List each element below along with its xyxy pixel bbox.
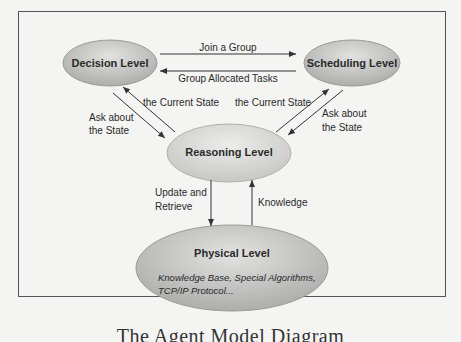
- edge-knowledge: Knowledge: [252, 180, 308, 225]
- node-physical-level: Physical Level Knowledge Base, Special A…: [136, 225, 328, 311]
- node-reasoning-level: Reasoning Level: [167, 124, 291, 182]
- edge-label-update-1: Update and: [155, 187, 207, 198]
- node-reasoning-title: Reasoning Level: [185, 146, 272, 158]
- diagram-canvas: Decision Level Scheduling Level Reasonin…: [0, 0, 461, 342]
- edge-label-right-ask-2: the State: [322, 122, 362, 133]
- node-decision-level: Decision Level: [63, 40, 157, 86]
- edge-group-allocated-tasks: Group Allocated Tasks: [160, 71, 296, 84]
- node-decision-title: Decision Level: [71, 57, 148, 69]
- edge-label-left-current-state: the Current State: [143, 97, 220, 108]
- edge-label-join-group: Join a Group: [199, 42, 257, 53]
- node-scheduling-level: Scheduling Level: [304, 40, 400, 86]
- edge-left-current-state: the Current State: [123, 87, 220, 132]
- edge-label-knowledge: Knowledge: [258, 197, 308, 208]
- node-scheduling-title: Scheduling Level: [307, 57, 397, 69]
- edge-label-right-current-state: the Current State: [235, 97, 312, 108]
- edge-label-right-ask-1: Ask about: [322, 108, 367, 119]
- diagram-svg: Decision Level Scheduling Level Reasonin…: [0, 0, 461, 342]
- node-physical-title: Physical Level: [194, 247, 270, 259]
- node-physical-subtitle-1: Knowledge Base, Special Algorithms,: [158, 272, 316, 283]
- edge-label-left-ask-2: the State: [89, 125, 129, 136]
- edge-label-group-tasks: Group Allocated Tasks: [178, 73, 277, 84]
- edge-label-update-2: Retrieve: [155, 201, 193, 212]
- node-physical-subtitle-2: TCP/IP Protocol...: [158, 285, 234, 296]
- figure-caption: The Agent Model Diagram: [0, 325, 461, 342]
- edge-update-retrieve: Update and Retrieve: [155, 180, 211, 226]
- edge-label-left-ask-1: Ask about: [89, 112, 134, 123]
- edge-join-group: Join a Group: [160, 42, 296, 54]
